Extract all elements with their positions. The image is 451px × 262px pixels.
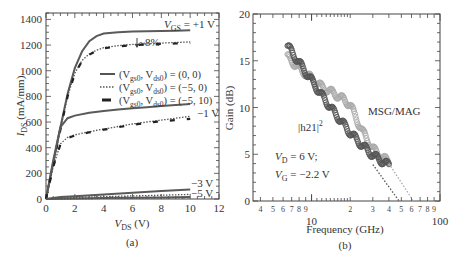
panel-b-y-axis-title: Gain (dB) (223, 86, 236, 131)
x-minor-tick-label: 5 (399, 205, 403, 214)
x-minor-tick-label: 4 (258, 205, 262, 214)
x-minor-tick-label: 5 (271, 205, 275, 214)
y-tick-label: 1000 (20, 65, 43, 77)
x-minor-tick-label: 2 (348, 205, 352, 214)
y-tick-label: 400 (26, 142, 43, 154)
x-minor-tick-label: 4 (387, 205, 391, 214)
x-minor-tick-label: 9 (304, 205, 308, 214)
y-tick-label: 800 (26, 90, 43, 102)
panel-b-caption: (b) (339, 239, 352, 252)
x-minor-tick-label: 3 (371, 205, 375, 214)
vgs-minus1-annotation: −1 V (197, 107, 219, 119)
y-tick-label: 0 (245, 195, 251, 207)
x-minor-tick-label: 6 (410, 205, 414, 214)
panel-a-x-axis-title: VDS (V) (115, 217, 150, 232)
x-tick-label: 0 (43, 202, 49, 214)
legend-label-2: (Vgs0, Vds0) = (−5, 0) (119, 82, 207, 96)
y-tick-label: 1200 (20, 39, 43, 51)
x-minor-tick-label: 8 (297, 205, 301, 214)
extrapolation-line (373, 165, 399, 201)
x-tick-label: 10 (185, 202, 197, 214)
x-minor-tick-label: 7 (290, 205, 294, 214)
y-tick-label: 200 (26, 167, 43, 179)
panel-a-curves (46, 30, 190, 199)
panel-a-x-tick-labels: 024681012 (43, 202, 224, 214)
panel-a-y-axis-title: IDS (mA/mm) (14, 75, 29, 137)
iv-curve (46, 43, 190, 199)
x-tick-label: 12 (214, 202, 225, 214)
iv-curve (46, 104, 190, 199)
iv-curve (46, 30, 190, 199)
x-minor-tick-label: 9 (432, 205, 436, 214)
panel-a-legend: (Vgs0, Vds0) = (0, 0) (Vgs0, Vds0) = (−5… (100, 69, 213, 109)
x-minor-tick-label: 7 (418, 205, 422, 214)
y-tick-label: 1400 (20, 13, 43, 25)
extrapolation-line (389, 164, 413, 201)
vgs-minus5-annotation: −5 V (191, 187, 213, 199)
y-tick-label: 5 (245, 148, 251, 160)
vg-annotation: VG = −2.2 V (275, 168, 330, 183)
vd-annotation: VD = 6 V; (275, 150, 317, 165)
x-minor-tick-label: 8 (426, 205, 430, 214)
x-tick-label: 2 (72, 202, 78, 214)
iv-curve (46, 42, 190, 199)
y-tick-label: 0 (37, 193, 43, 205)
iv-curve (46, 116, 190, 199)
panel-a-caption: (a) (126, 236, 139, 249)
panel-b-chart: 05101520 4567892345678910100 Gain (dB) F… (223, 8, 449, 252)
panel-b-y-tick-labels: 05101520 (239, 8, 251, 207)
iv-curve (46, 119, 190, 199)
percent-annotation: ~8% (139, 36, 160, 48)
y-tick-label: 20 (239, 8, 251, 20)
x-tick-label: 8 (159, 202, 165, 214)
panel-a-chart: 0200400600800100012001400 024681012 IDS … (14, 13, 225, 249)
x-minor-tick-label: 6 (281, 205, 285, 214)
figure: 0200400600800100012001400 024681012 IDS … (0, 0, 451, 262)
msg-mag-annotation: MSG/MAG (368, 105, 421, 117)
panel-b-x-axis-title: Frequency (GHz) (306, 223, 384, 236)
x-major-tick-label: 100 (432, 215, 449, 227)
x-tick-label: 6 (130, 202, 136, 214)
y-tick-label: 15 (239, 55, 251, 67)
h21-annotation: |h21|2 (298, 119, 323, 133)
x-tick-label: 4 (101, 202, 107, 214)
legend-label-1: (Vgs0, Vds0) = (0, 0) (119, 69, 202, 83)
y-tick-label: 10 (239, 102, 251, 114)
